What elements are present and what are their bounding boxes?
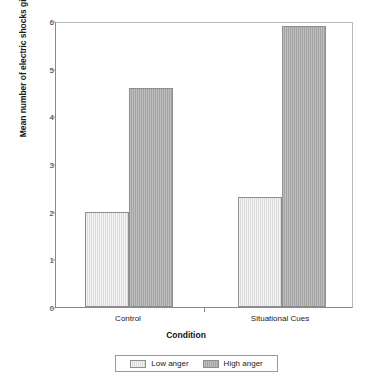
legend-label-low-anger: Low anger [151, 359, 188, 368]
x-tick-label-situational-cues: Situational Cues [251, 314, 309, 323]
high-anger-swatch-icon [203, 360, 219, 368]
bar-control-high-anger [129, 88, 173, 307]
bar-situational-cues-high-anger [282, 26, 326, 307]
bar-control-low-anger [85, 212, 129, 307]
x-tick-mark-center [204, 308, 205, 312]
bar-situational-cues-low-anger [238, 197, 282, 307]
bar-chart-figure: Mean number of electric shocks given to … [0, 0, 372, 386]
y-axis-label: Mean number of electric shocks given to … [14, 0, 32, 174]
legend-label-high-anger: High anger [224, 359, 263, 368]
low-anger-swatch-icon [130, 360, 146, 368]
plot-area [55, 22, 353, 308]
chart-legend: Low anger High anger [115, 355, 278, 372]
legend-item-high-anger: High anger [203, 359, 263, 368]
x-axis-label: Condition [0, 330, 372, 340]
legend-item-low-anger: Low anger [130, 359, 188, 368]
x-tick-label-control: Control [115, 314, 141, 323]
